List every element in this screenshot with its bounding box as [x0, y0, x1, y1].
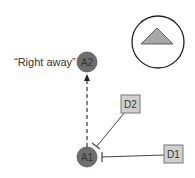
triangle-symbol-icon — [132, 16, 184, 68]
node-a2: A2 — [77, 52, 97, 72]
node-a1-label: A1 — [81, 152, 94, 163]
node-d1: D1 — [164, 145, 183, 163]
annotation-text: “Right away” — [14, 56, 76, 68]
node-a1: A1 — [77, 147, 97, 167]
node-d2: D2 — [121, 95, 140, 113]
edge-a1-to-a2 — [84, 74, 90, 147]
edge-d2-inhibits-a1 — [92, 112, 125, 149]
node-d2-label: D2 — [124, 99, 137, 110]
node-a2-label: A2 — [81, 57, 94, 68]
diagram-canvas: “Right away” A2 A1 D2 D1 — [0, 0, 195, 178]
node-d1-label: D1 — [167, 149, 180, 160]
edge-d1-inhibits-a1 — [102, 152, 164, 162]
